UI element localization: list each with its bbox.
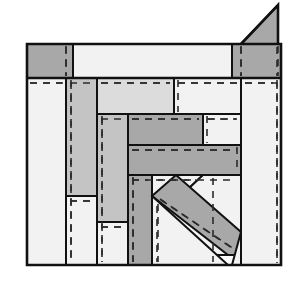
figure-root — [0, 0, 300, 287]
mid-dark-stretcher-block — [128, 114, 203, 145]
top-right-header-block — [232, 44, 281, 78]
upper-mid-light-block — [97, 78, 174, 114]
top-stretcher-block — [73, 44, 232, 78]
lower-gray-column — [128, 175, 152, 265]
right-tall-white-column — [241, 78, 281, 265]
left-tall-white-column — [27, 78, 66, 265]
masonry-bond-diagram — [0, 0, 300, 287]
